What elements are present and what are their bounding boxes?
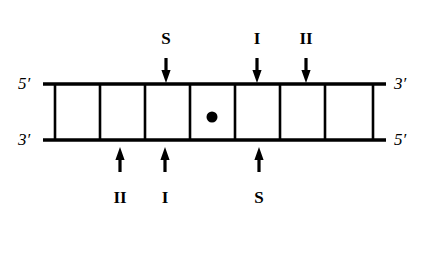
duplex-strands: [43, 84, 386, 140]
arrow-up-icon: [115, 147, 124, 172]
arrow-down-icon: [252, 58, 261, 83]
end-label-top-left: 5′: [18, 75, 30, 92]
arrow-down-icon: [161, 58, 170, 83]
diagram-canvas: 5′ 3′ 3′ 5′ S I II II I S: [0, 0, 429, 266]
arrow-up-icon: [254, 147, 263, 172]
bottom-site-label-s: S: [239, 189, 279, 206]
bottom-site-label-i: I: [145, 189, 185, 206]
end-label-bottom-right: 5′: [394, 131, 406, 148]
dna-duplex-svg: [0, 0, 429, 266]
arrow-up-icon: [160, 147, 169, 172]
bottom-site-label-ii: II: [100, 189, 140, 206]
top-site-label-ii: II: [286, 30, 326, 47]
arrow-down-icon: [301, 58, 310, 83]
center-dot-icon: [207, 112, 218, 123]
top-site-arrows: [161, 58, 310, 83]
end-label-bottom-left: 3′: [18, 131, 30, 148]
top-site-label-s: S: [146, 30, 186, 47]
top-site-label-i: I: [237, 30, 277, 47]
end-label-top-right: 3′: [394, 75, 406, 92]
bottom-site-arrows: [115, 147, 263, 172]
